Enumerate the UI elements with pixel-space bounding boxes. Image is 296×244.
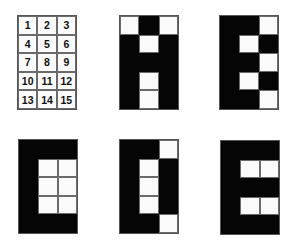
index-cell: 14 bbox=[37, 90, 56, 109]
filled-cell bbox=[159, 53, 178, 72]
letter-e-pattern-grid bbox=[220, 140, 280, 235]
empty-cell bbox=[259, 90, 278, 109]
filled-cell bbox=[159, 196, 178, 215]
index-cell: 3 bbox=[57, 16, 76, 35]
empty-cell bbox=[259, 16, 278, 35]
empty-cell bbox=[38, 177, 57, 196]
filled-cell bbox=[120, 196, 139, 215]
filled-cell bbox=[240, 141, 259, 160]
empty-cell bbox=[159, 214, 178, 233]
filled-cell bbox=[139, 140, 158, 159]
index-cell: 2 bbox=[37, 16, 56, 35]
empty-cell bbox=[240, 160, 259, 179]
filled-cell bbox=[159, 72, 178, 91]
filled-cell bbox=[260, 141, 279, 160]
filled-cell bbox=[221, 178, 240, 197]
filled-cell bbox=[120, 35, 139, 54]
empty-cell bbox=[239, 72, 258, 91]
filled-cell bbox=[58, 214, 77, 233]
filled-cell bbox=[139, 214, 158, 233]
filled-cell bbox=[260, 215, 279, 234]
empty-cell bbox=[58, 159, 77, 178]
filled-cell bbox=[120, 53, 139, 72]
filled-cell bbox=[240, 178, 259, 197]
empty-cell bbox=[159, 16, 178, 35]
filled-cell bbox=[259, 72, 278, 91]
letter-d-pattern-grid bbox=[119, 139, 179, 234]
filled-cell bbox=[38, 214, 57, 233]
index-cell: 8 bbox=[37, 53, 56, 72]
empty-cell bbox=[58, 196, 77, 215]
letter-b-pattern-grid bbox=[219, 15, 279, 110]
empty-cell bbox=[139, 35, 158, 54]
filled-cell bbox=[120, 72, 139, 91]
filled-cell bbox=[19, 140, 38, 159]
filled-cell bbox=[159, 90, 178, 109]
numbered-index-grid: 123456789101112131415 bbox=[17, 15, 77, 110]
empty-cell bbox=[38, 159, 57, 178]
filled-cell bbox=[221, 197, 240, 216]
index-cell: 7 bbox=[18, 53, 37, 72]
filled-cell bbox=[58, 140, 77, 159]
index-cell: 11 bbox=[37, 72, 56, 91]
filled-cell bbox=[239, 16, 258, 35]
empty-cell bbox=[139, 159, 158, 178]
empty-cell bbox=[260, 160, 279, 179]
filled-cell bbox=[221, 141, 240, 160]
index-cell: 12 bbox=[57, 72, 76, 91]
filled-cell bbox=[220, 35, 239, 54]
empty-cell bbox=[38, 196, 57, 215]
filled-cell bbox=[19, 214, 38, 233]
filled-cell bbox=[120, 140, 139, 159]
filled-cell bbox=[221, 215, 240, 234]
empty-cell bbox=[139, 177, 158, 196]
filled-cell bbox=[159, 35, 178, 54]
empty-cell bbox=[139, 196, 158, 215]
filled-cell bbox=[220, 72, 239, 91]
filled-cell bbox=[19, 196, 38, 215]
filled-cell bbox=[239, 90, 258, 109]
filled-cell bbox=[120, 177, 139, 196]
filled-cell bbox=[120, 90, 139, 109]
index-cell: 15 bbox=[57, 90, 76, 109]
empty-cell bbox=[239, 35, 258, 54]
letter-c-pattern-grid bbox=[18, 139, 78, 234]
empty-cell bbox=[139, 90, 158, 109]
index-cell: 6 bbox=[57, 35, 76, 54]
filled-cell bbox=[159, 159, 178, 178]
empty-cell bbox=[259, 53, 278, 72]
filled-cell bbox=[259, 35, 278, 54]
filled-cell bbox=[240, 215, 259, 234]
empty-cell bbox=[240, 197, 259, 216]
empty-cell bbox=[58, 177, 77, 196]
empty-cell bbox=[159, 140, 178, 159]
empty-cell bbox=[260, 197, 279, 216]
filled-cell bbox=[19, 159, 38, 178]
filled-cell bbox=[19, 177, 38, 196]
filled-cell bbox=[220, 16, 239, 35]
filled-cell bbox=[220, 90, 239, 109]
index-cell: 10 bbox=[18, 72, 37, 91]
filled-cell bbox=[239, 53, 258, 72]
filled-cell bbox=[221, 160, 240, 179]
filled-cell bbox=[220, 53, 239, 72]
filled-cell bbox=[139, 16, 158, 35]
letter-a-pattern-grid bbox=[119, 15, 179, 110]
index-cell: 5 bbox=[37, 35, 56, 54]
filled-cell bbox=[120, 159, 139, 178]
filled-cell bbox=[260, 178, 279, 197]
empty-cell bbox=[120, 16, 139, 35]
filled-cell bbox=[159, 177, 178, 196]
index-cell: 1 bbox=[18, 16, 37, 35]
filled-cell bbox=[38, 140, 57, 159]
filled-cell bbox=[139, 53, 158, 72]
filled-cell bbox=[120, 214, 139, 233]
index-cell: 13 bbox=[18, 90, 37, 109]
index-cell: 4 bbox=[18, 35, 37, 54]
index-cell: 9 bbox=[57, 53, 76, 72]
empty-cell bbox=[139, 72, 158, 91]
